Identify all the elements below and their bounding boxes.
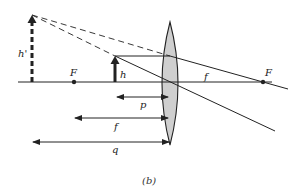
diagram-canvas: h' h F F f p f q (b) [0,0,301,190]
label-object-distance: p [140,99,147,110]
ray-through-center [115,56,275,131]
label-focal-length-lower: f [113,121,120,132]
label-focal-length-right: f [203,71,210,82]
converging-lens [162,22,178,145]
lens-diagram: h' h F F f p f q (b) [0,0,301,190]
virtual-ray-upper [32,15,170,56]
label-object-height: h [120,69,126,80]
focal-point-left [72,80,76,84]
figure-caption: (b) [142,175,156,186]
label-focal-left: F [69,67,78,78]
label-image-distance: q [112,144,118,155]
label-focal-right: F [264,67,273,78]
label-image-height: h' [18,48,27,59]
